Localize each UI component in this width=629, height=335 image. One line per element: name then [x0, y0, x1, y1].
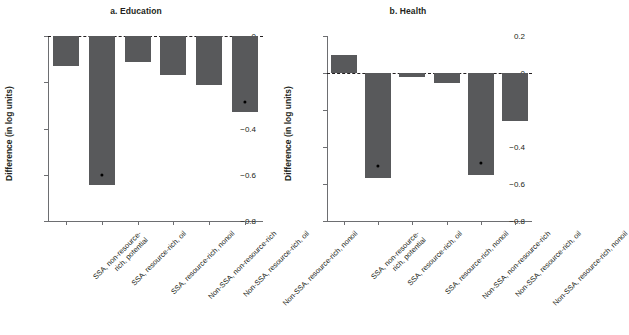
- bar: [468, 73, 494, 175]
- bar: [125, 36, 151, 62]
- y-tick-label: −0.8: [240, 217, 256, 226]
- x-tick: [66, 221, 67, 225]
- x-axis-spine: [48, 221, 263, 222]
- y-tick: [44, 82, 48, 83]
- x-tick: [412, 221, 413, 225]
- bar: [89, 36, 115, 185]
- y-tick: [323, 110, 327, 111]
- panel-title-health: b. Health: [272, 6, 544, 16]
- x-axis-spine: [327, 221, 532, 222]
- y-tick-label: −0.4: [509, 143, 525, 152]
- panel-education: a. Education Difference (in log units) 0…: [0, 0, 272, 335]
- plot-area-health: 0.20−0.2−0.4−0.6−0.8: [327, 36, 532, 221]
- y-tick: [323, 184, 327, 185]
- x-tick: [447, 221, 448, 225]
- y-tick: [323, 221, 327, 222]
- x-tick: [138, 221, 139, 225]
- y-tick-label: −0.6: [240, 170, 256, 179]
- bar: [399, 73, 425, 77]
- y-tick: [323, 147, 327, 148]
- x-tick: [245, 221, 246, 225]
- plot-area-education: 0−0.2−0.4−0.6−0.8: [48, 36, 263, 221]
- zero-reference-line: [48, 36, 263, 37]
- y-tick-label: 0.2: [514, 32, 525, 41]
- y-tick: [44, 175, 48, 176]
- y-tick-label: −0.4: [240, 124, 256, 133]
- x-tick: [209, 221, 210, 225]
- y-tick: [44, 129, 48, 130]
- bar: [160, 36, 186, 75]
- bar: [434, 73, 460, 83]
- y-tick-label: −0.8: [509, 217, 525, 226]
- y-axis-label-health: Difference (in log units): [283, 86, 293, 181]
- y-tick: [323, 36, 327, 37]
- y-tick-label: −0.6: [509, 180, 525, 189]
- panel-title-education: a. Education: [0, 6, 272, 16]
- y-axis-spine: [48, 36, 49, 221]
- bar: [196, 36, 222, 85]
- panel-health: b. Health Difference (in log units) 0.20…: [272, 0, 544, 335]
- x-tick: [481, 221, 482, 225]
- bar: [502, 73, 528, 121]
- x-tick: [173, 221, 174, 225]
- y-axis-label-education: Difference (in log units): [4, 86, 14, 181]
- x-tick: [344, 221, 345, 225]
- y-tick: [44, 221, 48, 222]
- bar: [53, 36, 79, 66]
- x-tick: [378, 221, 379, 225]
- x-tick: [102, 221, 103, 225]
- x-axis-tick-label: Non-SSA, resource-rich, nonoil: [551, 229, 629, 307]
- bar: [331, 55, 357, 74]
- x-tick: [515, 221, 516, 225]
- y-axis-spine: [327, 36, 328, 221]
- bar: [365, 73, 391, 178]
